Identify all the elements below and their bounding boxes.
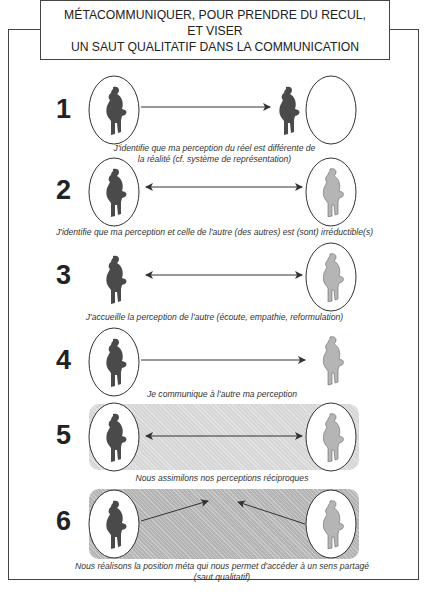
step-6-right-arrow (238, 502, 305, 524)
step-4-caption: Je communique à l'autre ma perception (0, 389, 429, 400)
step-3-number: 3 (56, 260, 71, 291)
step-1-number: 1 (56, 94, 71, 125)
step-1-caption-line-1: J'identifie que ma perception du réel es… (0, 143, 429, 154)
step-3-self-figure-icon (106, 256, 126, 304)
step-3-caption: J'accueille la perception de l'autre (éc… (0, 312, 429, 323)
step-6-number: 6 (56, 506, 71, 537)
step-1-caption-line-2: la réalité (cf. système de représentatio… (0, 154, 429, 165)
step-6-left-arrow (141, 501, 208, 521)
step-2-caption: J'identifie que ma perception et celle d… (0, 227, 429, 238)
step-1-reality-oval (306, 76, 356, 144)
step-4-other-figure-icon (323, 337, 343, 385)
step-1-reality-figure-icon (279, 87, 299, 135)
step-5-number: 5 (56, 420, 71, 451)
step-5-caption: Nous assimilons nos perceptions réciproq… (0, 473, 429, 484)
step-6-caption-line-2: (saut qualitatif) (0, 572, 429, 583)
step-6-caption: Nous réalisons la position méta qui nous… (0, 561, 429, 583)
step-1-caption: J'identifie que ma perception du réel es… (0, 143, 429, 165)
step-4-number: 4 (56, 345, 71, 376)
step-6-caption-line-1: Nous réalisons la position méta qui nous… (0, 561, 429, 572)
step-2-number: 2 (56, 175, 71, 206)
